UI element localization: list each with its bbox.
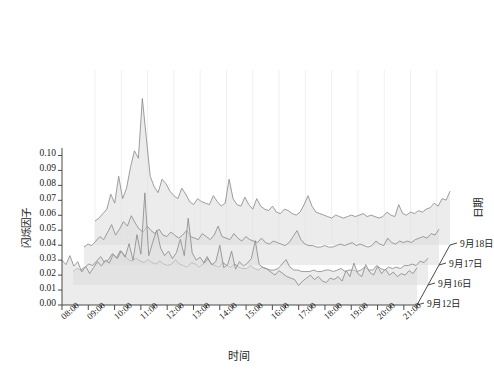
y-axis-tick-label: 0.03 (20, 253, 56, 263)
z-axis-tick-label: 9月16日 (438, 276, 472, 290)
z-axis-tick (450, 243, 457, 245)
z-axis-title: 日期 (470, 198, 485, 218)
y-axis-tick-label: 0.00 (20, 298, 56, 308)
y-axis-tick-label: 0.08 (20, 178, 56, 188)
series-area (95, 98, 450, 245)
z-axis-tick-label: 9月12日 (427, 296, 461, 310)
y-axis-tick-label: 0.10 (20, 148, 56, 158)
x-axis-title: 时间 (228, 347, 250, 363)
y-axis-tick-label: 0.02 (20, 268, 56, 278)
z-axis-tick-label: 9月17日 (449, 256, 483, 270)
y-axis-tick-label: 0.07 (20, 193, 56, 203)
series-9月18日 (95, 98, 450, 245)
z-axis-tick-label: 9月18日 (460, 236, 494, 250)
y-axis-tick-label: 0.01 (20, 283, 56, 293)
y-axis-title: 闪烁因子 (18, 208, 33, 248)
y-axis-tick-label: 0.09 (20, 163, 56, 173)
